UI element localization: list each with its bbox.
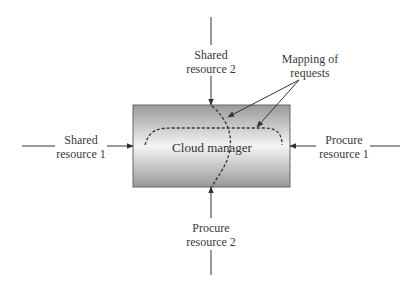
cloud-manager-label: Cloud manager <box>172 140 252 156</box>
label-line: Shared <box>186 48 236 62</box>
label-line: Mapping of <box>282 52 338 66</box>
label-shared-resource-1: Shared resource 1 <box>56 133 106 161</box>
label-line: requests <box>282 66 338 80</box>
label-line: Shared <box>56 133 106 147</box>
label-line: Procure <box>319 133 369 147</box>
label-line: Procure <box>186 221 236 235</box>
label-shared-resource-2: Shared resource 2 <box>186 48 236 76</box>
label-line: resource 2 <box>186 62 236 76</box>
label-line: resource 1 <box>319 147 369 161</box>
label-line: resource 2 <box>186 235 236 249</box>
label-procure-resource-2: Procure resource 2 <box>186 221 236 249</box>
label-line: resource 1 <box>56 147 106 161</box>
label-mapping-of-requests: Mapping of requests <box>282 52 338 80</box>
label-procure-resource-1: Procure resource 1 <box>319 133 369 161</box>
